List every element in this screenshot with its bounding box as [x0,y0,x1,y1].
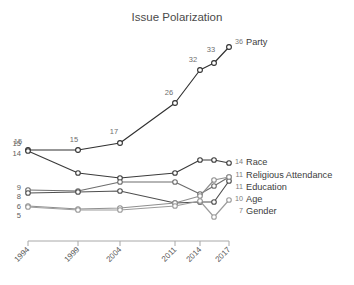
series-religious-attendance-marker [212,184,217,189]
series-religious-attendance-marker [118,180,123,185]
series-race-marker [227,161,232,166]
series-party-marker [118,141,123,146]
series-race-line [28,151,229,178]
issue-polarization-chart: Issue Polarization [0,0,354,285]
series-race-marker [198,158,203,163]
chart-title: Issue Polarization [132,11,223,23]
series-party-marker [212,61,217,66]
x-tick-1994: 1994 [12,245,31,264]
series-gender-marker [26,205,31,210]
series-education-marker [227,175,232,180]
series-race-marker [76,171,81,176]
party-point-label-1999: 15 [70,135,78,144]
series-party-line [28,47,229,150]
series-gender-marker [173,204,178,209]
party-point-label-2011: 26 [165,88,173,97]
series-party-marker [198,68,203,73]
series-gender-marker [118,208,123,213]
party-point-label-2004: 17 [110,127,118,136]
x-tick-1999: 1999 [62,245,81,264]
series-gender-marker [198,199,203,204]
x-tick-2004: 2004 [104,245,123,264]
series-party [26,45,232,153]
series-race-marker [173,171,178,176]
series-party-marker [227,45,232,50]
series-gender [26,198,232,220]
left-label-9: 9 [17,183,21,192]
series-race [26,149,232,181]
right-label-age: 10 Age [235,194,262,204]
right-label-gender-value: 7 [239,206,243,215]
right-label-race-value: 14 [235,157,243,166]
left-label-8: 8 [17,192,21,201]
left-label-5: 5 [17,211,21,220]
series-age-marker [76,190,81,195]
right-label-education-value: 11 [236,182,243,191]
series-race-marker [26,149,31,154]
left-label-6: 6 [17,202,21,211]
series-party-marker [76,148,81,153]
chart-svg: Issue Polarization [0,0,354,285]
right-label-education-name: Education [246,182,287,192]
right-label-race-name: Race [246,157,267,167]
right-label-religious-attendance-name: Religious Attendance [246,170,332,180]
series-education-marker [212,178,217,183]
right-label-gender-name: Gender [246,206,277,216]
series-gender-marker [76,208,81,213]
x-tick-2014: 2014 [184,245,203,264]
party-point-label-2014: 32 [189,55,197,64]
series-age-marker [212,200,217,205]
party-end-value: 36 [235,37,243,46]
x-tick-2017: 2017 [213,245,232,264]
left-label-15: 15 [13,139,21,148]
series-gender-marker [227,198,232,203]
right-label-religious-attendance-value: 11 [236,170,243,179]
x-tick-2011: 2011 [160,245,179,264]
right-label-age-name: Age [246,194,262,204]
right-label-religious-attendance: 11 Religious Attendance [236,170,333,180]
party-point-label-2015: 33 [207,45,215,54]
series-gender-marker [212,215,217,220]
right-label-gender: 7 Gender [239,206,277,216]
right-label-age-value: 10 [235,194,243,203]
series-education-marker [198,194,203,199]
series-religious-attendance-marker [173,180,178,185]
series-age-marker [26,191,31,196]
left-label-14: 14 [13,149,21,158]
right-label-education: 11 Education [236,182,287,192]
right-label-race: 14 Race [235,157,267,167]
x-axis: 1994 1999 2004 2011 2014 2017 [12,241,232,264]
series-age-marker [118,189,123,194]
series-race-marker [212,158,217,163]
series-party-marker [173,101,178,106]
party-end-name: Party [246,37,268,47]
